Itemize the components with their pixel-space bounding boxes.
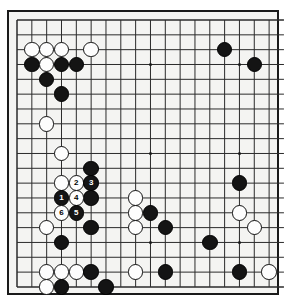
stone-white-move-2[interactable]: 2 xyxy=(69,175,85,191)
move-number-label: 6 xyxy=(55,206,69,220)
stone-black[interactable] xyxy=(232,264,248,280)
stone-black[interactable] xyxy=(83,264,99,280)
move-number-label: 4 xyxy=(70,191,84,205)
stone-black[interactable] xyxy=(83,220,99,236)
stone-black[interactable] xyxy=(54,86,70,102)
stone-white[interactable] xyxy=(54,264,70,280)
stone-black[interactable] xyxy=(202,235,218,251)
move-number-label: 1 xyxy=(55,191,69,205)
stone-black[interactable] xyxy=(158,264,174,280)
stone-black[interactable] xyxy=(24,57,40,73)
stone-black[interactable] xyxy=(232,175,248,191)
stone-black-move-5[interactable]: 5 xyxy=(69,205,85,221)
stone-white[interactable] xyxy=(128,205,144,221)
stone-white-move-4[interactable]: 4 xyxy=(69,190,85,206)
stone-white[interactable] xyxy=(128,264,144,280)
stone-black[interactable] xyxy=(54,279,70,295)
stone-black[interactable] xyxy=(83,190,99,206)
stone-white[interactable] xyxy=(128,190,144,206)
stone-white-move-6[interactable]: 6 xyxy=(54,205,70,221)
move-number-label: 3 xyxy=(84,176,98,190)
move-number-label: 5 xyxy=(70,206,84,220)
move-number-label: 2 xyxy=(70,176,84,190)
go-board-diagram: 231465 xyxy=(0,0,288,304)
stone-black[interactable] xyxy=(83,161,99,177)
stone-white[interactable] xyxy=(69,264,85,280)
stone-white[interactable] xyxy=(232,205,248,221)
stone-black[interactable] xyxy=(143,205,159,221)
stone-white[interactable] xyxy=(261,264,277,280)
stone-black[interactable] xyxy=(98,279,114,295)
stone-white[interactable] xyxy=(54,175,70,191)
stone-black[interactable] xyxy=(247,57,263,73)
stone-white[interactable] xyxy=(39,116,55,132)
stone-white[interactable] xyxy=(39,279,55,295)
stone-black-move-3[interactable]: 3 xyxy=(83,175,99,191)
stone-black-move-1[interactable]: 1 xyxy=(54,190,70,206)
stone-white[interactable] xyxy=(24,42,40,58)
